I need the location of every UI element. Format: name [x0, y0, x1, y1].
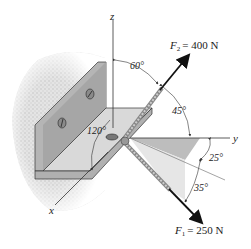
z-axis-label: z — [109, 10, 115, 22]
svg-text:F1= 250 N: F1= 250 N — [174, 224, 223, 238]
f1-value: = 250 N — [187, 224, 223, 236]
angle-35-label: 35° — [193, 182, 208, 193]
screw-icon — [58, 118, 66, 128]
force-diagram: z y x 60° 45° 120° 25° 35° F2= 400 N F1=… — [0, 0, 251, 249]
force-plane-shading — [130, 138, 200, 200]
f2-subscript: 2 — [177, 45, 181, 53]
f1-label: F1= 250 N — [174, 224, 223, 238]
x-axis-label: x — [48, 204, 54, 216]
svg-text:F2= 400 N: F2= 400 N — [169, 39, 218, 53]
f1-subscript: 1 — [182, 230, 186, 238]
f2-value: = 400 N — [182, 39, 218, 51]
eyelet — [106, 134, 118, 140]
screw-icon — [86, 89, 94, 99]
angle-25-label: 25° — [209, 152, 223, 163]
f2-arrow — [160, 56, 188, 90]
y-axis-label: y — [232, 132, 238, 144]
f2-label: F2= 400 N — [169, 39, 218, 53]
angle-120-label: 120° — [87, 125, 106, 136]
angle-45-label: 45° — [172, 105, 186, 116]
angle-60-label: 60° — [130, 60, 144, 71]
